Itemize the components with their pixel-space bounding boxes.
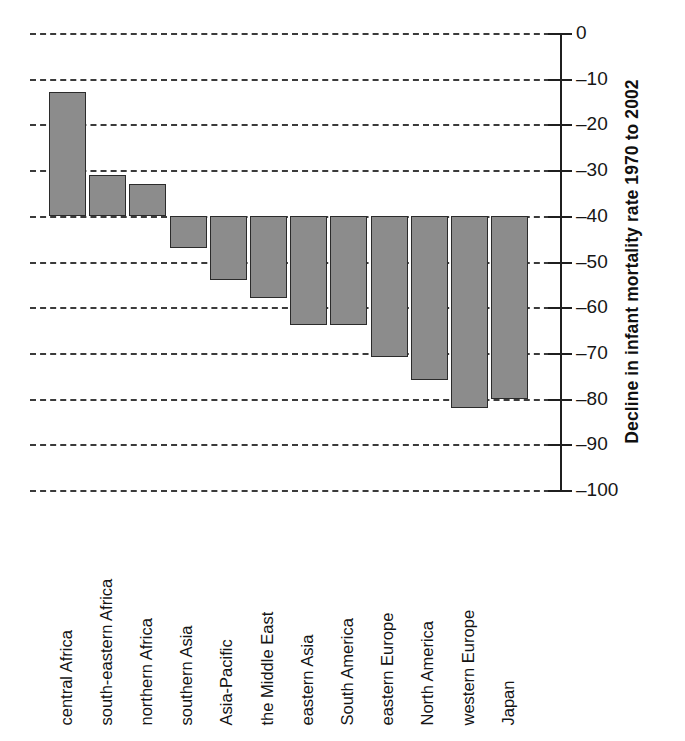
y-axis-tick-mark — [548, 124, 572, 126]
y-axis-tick-mark — [548, 307, 572, 309]
x-axis-category-label: North America — [419, 620, 436, 725]
y-axis-tick-mark — [548, 399, 572, 401]
bar — [49, 92, 86, 215]
bar — [89, 175, 126, 216]
y-axis-tick-mark — [548, 490, 572, 492]
bar — [290, 216, 327, 326]
y-axis-tick-mark — [548, 262, 572, 264]
y-axis-tick-label: –90 — [576, 434, 608, 453]
y-axis-tick-label: –30 — [576, 160, 608, 179]
y-axis-tick-mark — [548, 170, 572, 172]
y-axis-tick-label: –50 — [576, 252, 608, 271]
gridline — [30, 490, 560, 492]
infant-mortality-decline-bar-chart: 0–10–20–30–40–50–60–70–80–90–100 Decline… — [0, 0, 685, 741]
x-axis-category-label: eastern Europe — [379, 612, 396, 725]
bars-group — [30, 33, 560, 490]
bar — [451, 216, 488, 408]
bar — [210, 216, 247, 280]
y-axis-tick-label: –60 — [576, 297, 608, 316]
y-axis-tick-label: –80 — [576, 389, 608, 408]
bar — [371, 216, 408, 358]
y-axis-tick-label: –20 — [576, 114, 608, 133]
x-axis-category-label: northern Africa — [137, 618, 154, 725]
y-axis-tick-label: –40 — [576, 206, 608, 225]
bar — [170, 216, 207, 248]
bar — [330, 216, 367, 326]
x-axis-category-label: Japan — [499, 680, 516, 725]
bar — [129, 184, 166, 216]
bar — [491, 216, 528, 399]
x-axis-category-label: western Europe — [459, 609, 476, 725]
y-axis-tick-mark — [548, 444, 572, 446]
x-axis-category-label: southern Asia — [178, 625, 195, 725]
y-axis-tick-label: –70 — [576, 343, 608, 362]
x-axis-category-labels-group: central Africasouth-eastern Africanorthe… — [30, 505, 560, 725]
bar — [411, 216, 448, 381]
y-axis-tick-label: –100 — [576, 480, 618, 499]
y-axis-title: Decline in infant mortality rate 1970 to… — [622, 33, 652, 490]
x-axis-category-label: central Africa — [57, 630, 74, 725]
bar — [250, 216, 287, 298]
y-axis-tick-label: 0 — [576, 23, 587, 42]
y-axis-tick-mark — [548, 79, 572, 81]
y-axis-tick-label: –10 — [576, 69, 608, 88]
x-axis-category-label: eastern Asia — [298, 634, 315, 725]
x-axis-category-label: Asia-Pacific — [218, 639, 235, 725]
plot-area — [30, 33, 560, 490]
y-axis-tick-mark — [548, 353, 572, 355]
y-axis-tick-mark — [548, 33, 572, 35]
x-axis-category-label: the Middle East — [258, 611, 275, 725]
y-axis-tick-mark — [548, 216, 572, 218]
x-axis-category-label: south-eastern Africa — [97, 578, 114, 725]
x-axis-category-label: South America — [338, 618, 355, 725]
